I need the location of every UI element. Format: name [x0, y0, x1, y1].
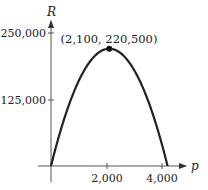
revenue-parabola-chart: R p 250,000 125,000 2,000 4,000 (2,100, … — [0, 0, 208, 190]
vertex-annotation: (2,100, 220,500) — [61, 32, 158, 46]
x-axis-label: p — [191, 159, 199, 173]
revenue-curve — [51, 49, 168, 166]
vertex-point — [106, 46, 112, 52]
y-tick-label-250000: 250,000 — [1, 27, 47, 40]
x-tick-label-4000: 4,000 — [146, 172, 178, 185]
y-tick-label-125000: 125,000 — [1, 94, 47, 107]
y-axis-label: R — [46, 5, 56, 19]
x-tick-label-2000: 2,000 — [91, 172, 123, 185]
